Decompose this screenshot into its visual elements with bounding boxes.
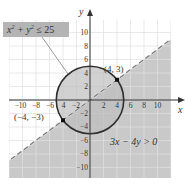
- x-tick-label: 8: [142, 101, 146, 110]
- x-tick-label: −8: [32, 101, 40, 110]
- x-tick-label: 4: [115, 101, 119, 110]
- y-tick-label: −6: [80, 136, 88, 145]
- line-inequality-label: 3x − 4y > 0: [109, 136, 157, 147]
- y-tick-label: −8: [80, 149, 88, 158]
- y-axis-arrow-icon: [87, 9, 93, 16]
- x-tick-label: −6: [46, 101, 54, 110]
- y-tick-label: 4: [84, 69, 88, 78]
- x-axis-arrow-icon: [178, 97, 185, 103]
- x-tick-label: 4: [62, 101, 66, 110]
- y-tick-label: 10: [81, 28, 89, 37]
- inequality-graph: x y −10 −8 −6 4 −2 2 4 6 8 10 10 8 6 4 2…: [0, 0, 194, 184]
- x-tick-label: −10: [15, 101, 27, 110]
- x-tick-label: 6: [129, 101, 133, 110]
- point-label-4-3: (4, 3): [104, 64, 124, 74]
- x-tick-label: 10: [154, 101, 162, 110]
- y-tick-label: 6: [84, 55, 88, 64]
- callout-leader-line: [42, 37, 68, 74]
- y-tick-label: 2: [84, 82, 88, 91]
- y-tick-label: −10: [76, 163, 88, 172]
- y-tick-label: −4: [80, 122, 88, 131]
- y-tick-label: −2: [80, 109, 88, 118]
- x-axis-label: x: [177, 104, 183, 115]
- x-tick-label: −2: [72, 101, 80, 110]
- point-4-3: [115, 78, 119, 82]
- y-tick-label: 8: [84, 42, 88, 51]
- x-tick-label: 2: [102, 101, 106, 110]
- point-label-neg4-neg3: (−4, −3): [14, 112, 44, 122]
- y-axis-label: y: [78, 6, 84, 17]
- point-neg4-neg3: [61, 118, 65, 122]
